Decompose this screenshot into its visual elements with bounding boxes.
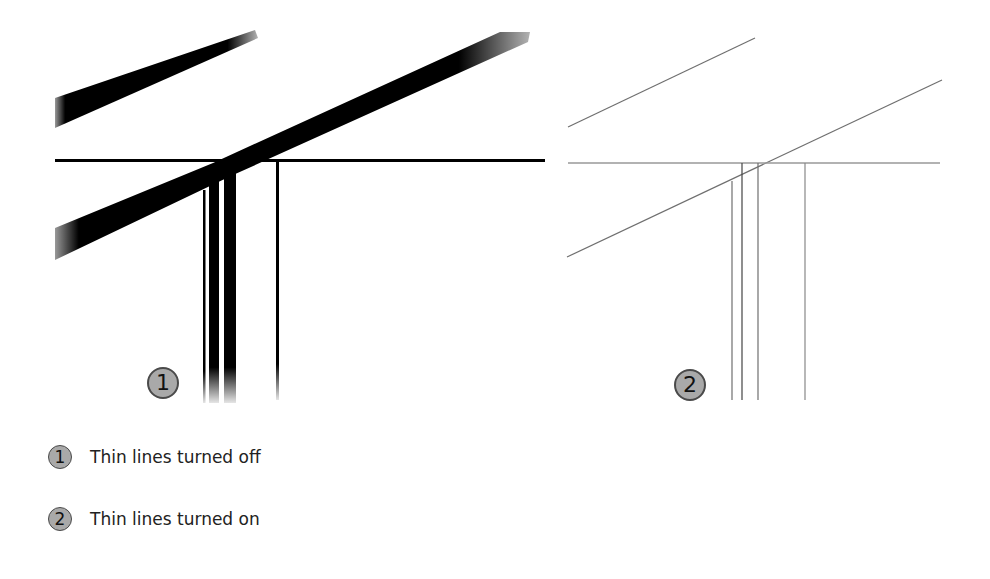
legend-item-1: 1 Thin lines turned off xyxy=(48,444,261,470)
vertical-thin-2 xyxy=(276,160,279,400)
line-weight-illustration xyxy=(0,0,990,420)
vertical-thin-1 xyxy=(203,190,206,403)
panel-thin-lines-on xyxy=(567,38,942,400)
panel-1-badge: 1 xyxy=(147,367,179,399)
horizontal-line xyxy=(55,159,545,162)
legend-item-2: 2 Thin lines turned on xyxy=(48,506,261,532)
legend-badge-2: 2 xyxy=(48,507,72,531)
legend-label-1: Thin lines turned off xyxy=(90,447,261,467)
panel-thin-lines-off xyxy=(55,30,545,403)
comparison-figure: 1 2 xyxy=(0,0,990,420)
thick-diagonal-lower xyxy=(55,32,530,260)
thick-diagonal-upper xyxy=(55,30,258,128)
thin-diagonal-upper xyxy=(568,38,755,127)
thin-diagonal-lower xyxy=(567,80,942,257)
legend-badge-1: 1 xyxy=(48,445,72,469)
panel-2-badge: 2 xyxy=(674,369,706,401)
vertical-thick-2 xyxy=(224,165,236,403)
legend-label-2: Thin lines turned on xyxy=(90,509,260,529)
legend: 1 Thin lines turned off 2 Thin lines tur… xyxy=(48,444,261,568)
vertical-thick-1 xyxy=(209,165,219,403)
